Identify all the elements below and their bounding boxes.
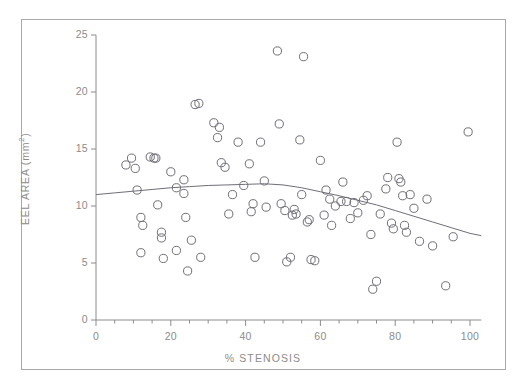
- x-tick-label: 0: [76, 330, 116, 342]
- y-axis-title-exponent: 2: [17, 137, 26, 142]
- y-tick-label: 20: [50, 85, 88, 97]
- y-tick-label: 0: [50, 313, 88, 325]
- x-tick-label: 60: [300, 330, 340, 342]
- x-tick-label: 80: [375, 330, 415, 342]
- figure-canvas: 0510152025020406080100 % STENOSIS EEL AR…: [0, 0, 526, 389]
- x-axis-title: % STENOSIS: [0, 352, 526, 364]
- y-tick-label: 15: [50, 142, 88, 154]
- x-tick-label: 40: [226, 330, 266, 342]
- y-tick-label: 10: [50, 199, 88, 211]
- x-tick-label: 20: [151, 330, 191, 342]
- figure-border: [21, 19, 506, 370]
- y-axis-title-tail: ): [19, 132, 31, 136]
- y-axis-title: EEL AREA (mm2): [17, 99, 31, 259]
- y-tick-label: 5: [50, 256, 88, 268]
- x-tick-label: 100: [450, 330, 490, 342]
- y-tick-label: 25: [50, 28, 88, 40]
- y-axis-title-main: EEL AREA (mm: [19, 142, 31, 225]
